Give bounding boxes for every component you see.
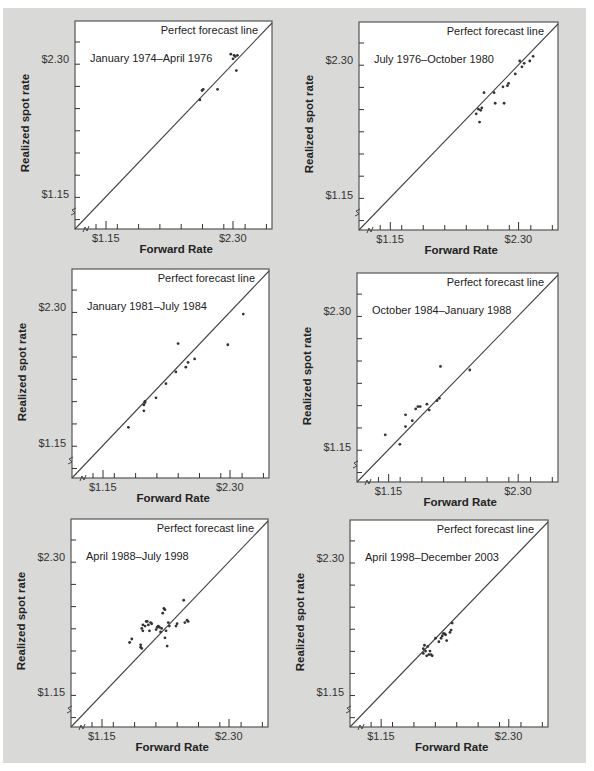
data-point bbox=[128, 641, 131, 644]
data-point bbox=[429, 650, 432, 653]
y-axis-label: Realized spot rate bbox=[303, 69, 315, 179]
data-point bbox=[150, 622, 153, 625]
data-point bbox=[478, 121, 481, 124]
data-point bbox=[450, 629, 453, 632]
data-point bbox=[411, 419, 414, 422]
data-point bbox=[414, 408, 417, 411]
data-point bbox=[130, 638, 133, 641]
data-point bbox=[422, 652, 425, 655]
period-label: July 1976–October 1980 bbox=[374, 53, 494, 65]
data-point bbox=[161, 612, 164, 615]
perfect-forecast-label: Perfect forecast line bbox=[447, 25, 544, 37]
data-point bbox=[424, 650, 427, 653]
x-axis-label: Forward Rate bbox=[137, 492, 211, 504]
data-point bbox=[514, 73, 517, 76]
x-axis-label: Forward Rate bbox=[424, 496, 498, 508]
x-tick-label-low: $1.15 bbox=[88, 730, 116, 742]
data-point bbox=[226, 343, 229, 346]
scatter-panel-3: Perfect forecast lineJanuary 1981–July 1… bbox=[72, 269, 269, 478]
data-point bbox=[165, 629, 168, 632]
period-label: January 1974–April 1976 bbox=[90, 52, 212, 64]
y-tick-label-low: $1.15 bbox=[323, 441, 351, 453]
y-tick-label-high: $2.30 bbox=[37, 551, 65, 563]
data-point bbox=[167, 621, 170, 624]
data-point bbox=[187, 361, 190, 364]
data-point bbox=[144, 625, 147, 628]
x-tick-label-high: $2.30 bbox=[219, 232, 247, 244]
y-axis-label: Realized spot rate bbox=[15, 566, 27, 676]
data-point bbox=[451, 622, 454, 625]
data-point bbox=[141, 629, 144, 632]
y-axis-label: Realized spot rate bbox=[301, 321, 313, 431]
y-tick-label-low: $1.15 bbox=[325, 189, 353, 201]
x-tick-label-low: $1.15 bbox=[89, 481, 117, 493]
data-point bbox=[176, 622, 179, 625]
x-tick-label-high: $2.30 bbox=[505, 233, 533, 245]
data-point bbox=[398, 443, 401, 446]
data-point bbox=[187, 620, 190, 623]
data-point bbox=[439, 365, 442, 368]
data-point bbox=[428, 409, 431, 412]
perfect-forecast-label: Perfect forecast line bbox=[158, 272, 255, 284]
x-tick-label-low: $1.15 bbox=[92, 232, 120, 244]
data-point bbox=[159, 631, 162, 634]
data-point bbox=[384, 433, 387, 436]
period-label: October 1984–January 1988 bbox=[372, 304, 511, 316]
perfect-forecast-label: Perfect forecast line bbox=[161, 24, 258, 36]
data-point bbox=[202, 88, 205, 91]
period-label: January 1981–July 1984 bbox=[87, 300, 207, 312]
data-point bbox=[445, 639, 448, 642]
data-point bbox=[160, 627, 163, 630]
perfect-forecast-label: Perfect forecast line bbox=[447, 276, 544, 288]
x-tick-label-high: $2.30 bbox=[216, 481, 244, 493]
data-point bbox=[493, 91, 496, 94]
perfect-forecast-label: Perfect forecast line bbox=[437, 523, 534, 535]
data-point bbox=[503, 102, 506, 105]
data-point bbox=[216, 88, 219, 91]
data-point bbox=[518, 60, 521, 63]
data-point bbox=[183, 621, 186, 624]
data-point bbox=[436, 399, 439, 402]
data-point bbox=[165, 382, 168, 385]
y-tick-label-high: $2.30 bbox=[316, 552, 344, 564]
data-point bbox=[147, 624, 150, 627]
data-point bbox=[164, 636, 167, 639]
y-tick-label-high: $2.30 bbox=[325, 54, 353, 66]
data-point bbox=[434, 637, 437, 640]
data-point bbox=[475, 112, 478, 115]
scatter-panel-1: Perfect forecast lineJanuary 1974–April … bbox=[75, 21, 272, 229]
data-point bbox=[426, 403, 429, 406]
y-tick-label-low: $1.15 bbox=[41, 188, 69, 200]
data-point bbox=[521, 65, 524, 68]
data-point bbox=[127, 426, 130, 429]
y-tick-label-low: $1.15 bbox=[316, 686, 344, 698]
y-tick-label-low: $1.15 bbox=[37, 686, 65, 698]
y-tick-label-high: $2.30 bbox=[38, 301, 66, 313]
data-point bbox=[155, 396, 158, 399]
data-point bbox=[168, 625, 171, 628]
data-point bbox=[532, 55, 535, 58]
x-axis-label: Forward Rate bbox=[136, 741, 210, 753]
data-point bbox=[480, 107, 483, 110]
x-tick-label-low: $1.15 bbox=[375, 485, 403, 497]
data-point bbox=[236, 54, 239, 57]
x-axis-label: Forward Rate bbox=[425, 244, 499, 256]
data-point bbox=[193, 358, 196, 361]
data-point bbox=[177, 342, 180, 345]
data-point bbox=[229, 53, 232, 56]
data-point bbox=[146, 620, 149, 623]
data-point bbox=[423, 644, 426, 647]
data-point bbox=[494, 102, 497, 105]
y-tick-label-low: $1.15 bbox=[38, 437, 66, 449]
data-point bbox=[437, 640, 440, 643]
data-point bbox=[148, 629, 151, 632]
perfect-forecast-label: Perfect forecast line bbox=[157, 522, 254, 534]
data-point bbox=[404, 413, 407, 416]
data-point bbox=[174, 370, 177, 373]
data-point bbox=[140, 647, 143, 650]
data-point bbox=[528, 60, 531, 63]
data-point bbox=[444, 633, 447, 636]
data-point bbox=[507, 82, 510, 85]
data-point bbox=[139, 643, 142, 646]
x-axis-label: Forward Rate bbox=[415, 741, 489, 753]
